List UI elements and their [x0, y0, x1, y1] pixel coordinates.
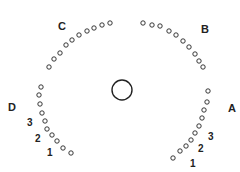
arc-label: B [201, 23, 209, 35]
dot [167, 29, 171, 33]
dot [205, 100, 209, 104]
dot [189, 138, 193, 142]
arc-label: D [8, 101, 16, 113]
arc-label: A [228, 102, 236, 114]
dot [158, 24, 162, 28]
dot [58, 51, 62, 55]
position-number: 1 [47, 147, 53, 158]
dot [37, 93, 41, 97]
dot [39, 85, 43, 89]
dot [206, 89, 210, 93]
diagram-canvas: CBDA321321 [0, 0, 240, 172]
dot [38, 102, 42, 106]
dot [181, 39, 185, 43]
dot [77, 33, 81, 37]
dot [64, 43, 68, 47]
dot [201, 65, 205, 69]
dot [70, 38, 74, 42]
dot [52, 57, 56, 61]
dot [200, 116, 204, 120]
dot [150, 23, 154, 27]
dot [187, 45, 191, 49]
dot [178, 149, 182, 153]
arc-c: C [47, 20, 112, 69]
position-number: 3 [27, 117, 33, 128]
dot [184, 144, 188, 148]
dot [174, 33, 178, 37]
dot [92, 26, 96, 30]
dot [40, 111, 44, 115]
position-number: 1 [190, 158, 196, 169]
dot [197, 59, 201, 63]
dot [43, 119, 47, 123]
dot [193, 131, 197, 135]
arc-label: C [58, 20, 66, 32]
dot [47, 65, 51, 69]
dot [69, 151, 73, 155]
dot [141, 21, 145, 25]
position-number: 3 [208, 131, 214, 142]
arc-d: D [8, 85, 73, 155]
dot [202, 108, 206, 112]
dot [100, 23, 104, 27]
dot [61, 146, 65, 150]
dot [45, 127, 49, 131]
arc-b: B [141, 21, 209, 69]
dot [85, 29, 89, 33]
dot [108, 21, 112, 25]
dot [197, 124, 201, 128]
position-number: 2 [198, 143, 204, 154]
dot [50, 133, 54, 137]
position-number: 2 [35, 133, 41, 144]
dot [55, 139, 59, 143]
dot [171, 156, 175, 160]
center-circle [112, 80, 132, 100]
dot-arc-diagram: CBDA321321 [0, 0, 240, 172]
dot [193, 52, 197, 56]
